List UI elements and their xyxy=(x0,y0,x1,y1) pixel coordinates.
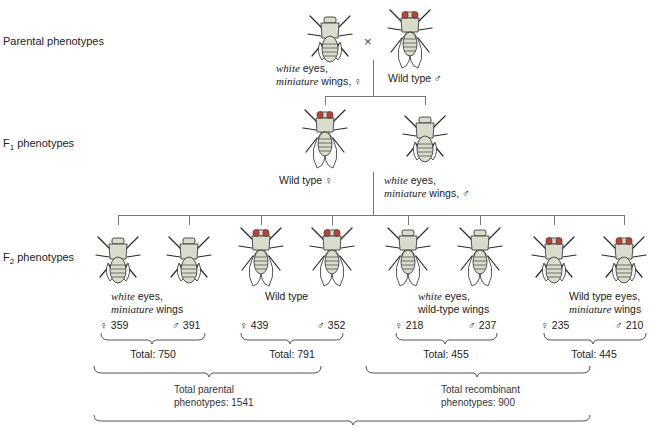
f2-group-2-total: Total: 791 xyxy=(257,348,327,360)
total-recombinant-phenotypes: Total recombinant phenotypes: 900 xyxy=(441,383,520,409)
brace-lines xyxy=(0,0,663,435)
f2-group-1-total: Total: 750 xyxy=(118,348,188,360)
f2-group-3-total: Total: 455 xyxy=(411,348,481,360)
total-parental-phenotypes: Total parental phenotypes: 1541 xyxy=(174,383,254,409)
f2-group-4-total: Total: 445 xyxy=(559,348,629,360)
